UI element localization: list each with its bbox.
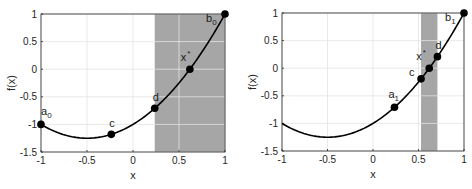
x-axis-label: x [130,169,136,181]
y-tick-label: 1 [272,8,278,19]
data-point-c [107,131,115,139]
chart-panel-2: -1-0.500.5110.50-0.5-1-1.5xf(x)a1cx*db1 [246,8,468,181]
data-point-b0 [221,10,229,18]
shaded-interval [155,14,225,152]
x-tick-label: -0.5 [319,154,337,165]
y-tick-label: -0.5 [20,91,38,102]
y-axis-label: f(x) [5,75,17,91]
y-tick-label: 0 [272,63,278,74]
point-label: c [109,117,115,129]
point-label: d [435,39,441,51]
x-tick-label: -1 [278,154,287,165]
y-tick-label: -1 [269,118,278,129]
data-point-d [434,53,442,61]
y-tick-label: -0.5 [261,90,279,101]
y-tick-label: 0 [31,64,37,75]
x-tick-label: 1 [461,154,467,165]
data-point-x-star [425,64,433,72]
y-tick-label: -1.5 [261,146,279,157]
shaded-interval [421,13,437,151]
golden-section-charts: -1-0.500.5110.50-0.5-1-1.5xf(x)a0cdx*b0-… [0,0,472,189]
y-tick-label: 0.5 [23,36,37,47]
y-tick-label: -1 [28,119,37,130]
y-tick-label: 1 [31,9,37,20]
y-tick-label: 0.5 [264,35,278,46]
data-point-a1 [391,103,399,111]
data-point-c [417,75,425,83]
data-point-a0 [37,121,45,129]
data-point-d [151,104,159,112]
x-tick-label: 1 [222,155,228,166]
x-tick-label: -1 [37,155,46,166]
point-label: d [153,91,159,103]
point-label: c [409,66,415,78]
x-tick-label: 0 [130,155,136,166]
y-tick-label: -1.5 [20,147,38,158]
x-tick-label: 0.5 [172,155,186,166]
x-tick-label: 0 [370,154,376,165]
chart-panel-1: -1-0.500.5110.50-0.5-1-1.5xf(x)a0cdx*b0 [5,9,229,182]
x-tick-label: -0.5 [78,155,96,166]
data-point-b1 [460,9,468,17]
x-axis-label: x [370,168,376,180]
data-point-x-star [186,65,194,73]
x-tick-label: 0.5 [412,154,426,165]
y-axis-label: f(x) [246,74,258,90]
